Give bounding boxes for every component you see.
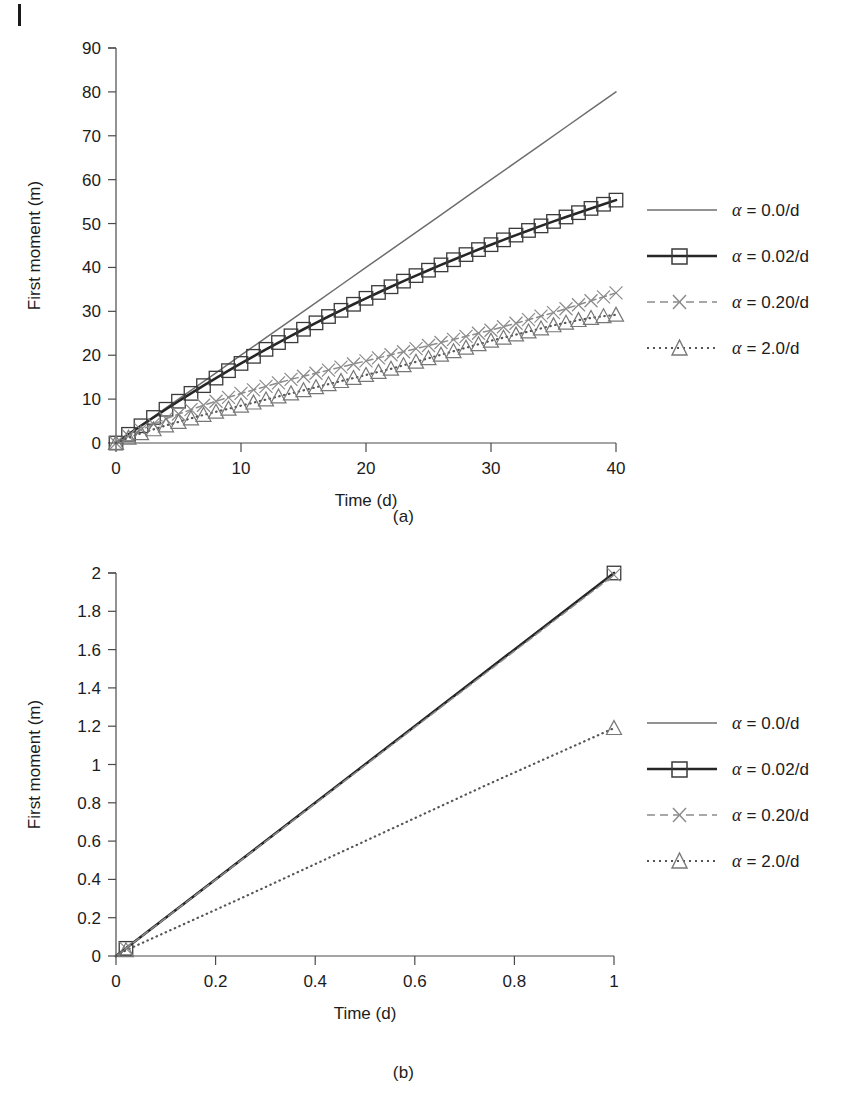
- legend-label-b-alpha-0: α = 0.0/d: [732, 713, 800, 734]
- series-marker-2: [585, 294, 598, 307]
- y-tick-label: 80: [82, 83, 101, 102]
- legend-key-dashed-cross: [645, 803, 719, 827]
- y-tick-label: 90: [82, 39, 101, 58]
- y-tick-label: 50: [82, 215, 101, 234]
- legend-a: α = 0.0/d α = 0.02/d α = 0.20/d α = 2.0/…: [645, 187, 809, 371]
- legend-label-alpha-20: α = 2.0/d: [732, 338, 800, 359]
- x-tick-label: 1: [609, 972, 618, 991]
- y-tick-label: 0.4: [77, 870, 101, 889]
- y-tick-label: 1.2: [77, 717, 101, 736]
- series-marker-2: [360, 354, 373, 367]
- series-line-3: [116, 315, 616, 443]
- legend-key-solid-thick-square: [645, 244, 719, 268]
- legend-key-dashed-cross: [645, 290, 719, 314]
- series-marker-2: [322, 364, 335, 377]
- legend-row-alpha-020[interactable]: α = 0.20/d: [645, 279, 809, 325]
- series-marker-2: [385, 348, 398, 361]
- x-tick-label: 40: [607, 459, 626, 478]
- y-tick-label: 60: [82, 171, 101, 190]
- series-marker-2: [285, 373, 298, 386]
- series-marker-3: [396, 358, 411, 372]
- series-marker-3: [196, 407, 211, 421]
- series-line-3: [116, 728, 614, 956]
- y-tick-label: 1.4: [77, 679, 101, 698]
- subplot-caption-b: (b): [0, 1063, 835, 1083]
- legend-label-b-alpha-20: α = 2.0/d: [732, 851, 800, 872]
- figure-page: 0102030405060708090010203040Time (d)Firs…: [0, 0, 863, 1109]
- legend-label-alpha-002: α = 0.02/d: [732, 246, 809, 267]
- series-line-2: [116, 575, 614, 956]
- x-tick-label: 0.2: [204, 972, 228, 991]
- legend-row-alpha-002[interactable]: α = 0.02/d: [645, 233, 809, 279]
- series-marker-3: [434, 347, 449, 361]
- y-tick-label: 30: [82, 302, 101, 321]
- y-tick-label: 10: [82, 390, 101, 409]
- legend-label-b-alpha-020: α = 0.20/d: [732, 805, 809, 826]
- y-tick-label: 0.6: [77, 832, 101, 851]
- legend-label-alpha-020: α = 0.20/d: [732, 292, 809, 313]
- y-tick-label: 1: [92, 756, 101, 775]
- series-marker-3: [346, 371, 361, 385]
- legend-key-dotted-triangle: [645, 336, 719, 360]
- series-marker-3: [609, 307, 624, 321]
- x-tick-label: 0.4: [303, 972, 327, 991]
- series-marker-2: [572, 298, 585, 311]
- series-marker-2: [610, 286, 623, 299]
- legend-row-b-alpha-020[interactable]: α = 0.20/d: [645, 792, 809, 838]
- y-tick-label: 40: [82, 258, 101, 277]
- legend-b: α = 0.0/d α = 0.02/d α = 0.20/d α = 2.0/…: [645, 700, 809, 884]
- y-axis-title: First moment (m): [25, 181, 44, 310]
- series-marker-2: [310, 367, 323, 380]
- series-marker-2: [347, 358, 360, 371]
- legend-key-solid-thin: [645, 198, 719, 222]
- series-marker-3: [607, 721, 622, 735]
- series-marker-3: [309, 380, 324, 394]
- series-marker-2: [560, 302, 573, 315]
- x-tick-label: 20: [357, 459, 376, 478]
- series-marker-2: [272, 376, 285, 389]
- x-axis-title: Time (d): [334, 1004, 397, 1023]
- legend-key-solid-thin: [645, 711, 719, 735]
- series-marker-2: [335, 361, 348, 374]
- legend-row-alpha-20[interactable]: α = 2.0/d: [645, 325, 809, 371]
- series-marker-2: [185, 403, 198, 416]
- y-tick-label: 70: [82, 127, 101, 146]
- y-tick-label: 20: [82, 346, 101, 365]
- x-tick-label: 0.8: [503, 972, 527, 991]
- legend-label-b-alpha-002: α = 0.02/d: [732, 759, 809, 780]
- series-marker-2: [197, 399, 210, 412]
- y-tick-label: 0.2: [77, 909, 101, 928]
- y-tick-label: 0: [92, 947, 101, 966]
- series-marker-3: [371, 364, 386, 378]
- legend-label-alpha-0: α = 0.0/d: [732, 200, 800, 221]
- x-tick-label: 0: [111, 972, 120, 991]
- y-tick-label: 1.8: [77, 602, 101, 621]
- y-tick-label: 1.6: [77, 641, 101, 660]
- legend-row-b-alpha-20[interactable]: α = 2.0/d: [645, 838, 809, 884]
- series-marker-3: [334, 374, 349, 388]
- series-marker-2: [372, 351, 385, 364]
- y-axis-title: First moment (m): [25, 700, 44, 829]
- x-tick-label: 30: [482, 459, 501, 478]
- series-marker-2: [210, 395, 223, 408]
- series-marker-3: [521, 324, 536, 338]
- y-tick-label: 0: [92, 434, 101, 453]
- legend-row-alpha-0[interactable]: α = 0.0/d: [645, 187, 809, 233]
- x-tick-label: 0.6: [403, 972, 427, 991]
- legend-key-dotted-triangle: [645, 849, 719, 873]
- series-marker-3: [284, 386, 299, 400]
- series-marker-2: [485, 324, 498, 337]
- series-marker-2: [397, 345, 410, 358]
- x-tick-label: 0: [111, 459, 120, 478]
- y-tick-label: 0.8: [77, 794, 101, 813]
- series-marker-3: [246, 395, 261, 409]
- series-marker-3: [259, 392, 274, 406]
- subplot-caption-a: (a): [0, 507, 835, 527]
- series-marker-2: [597, 290, 610, 303]
- legend-key-solid-thick-square: [645, 757, 719, 781]
- legend-row-b-alpha-002[interactable]: α = 0.02/d: [645, 746, 809, 792]
- x-tick-label: 10: [232, 459, 251, 478]
- series-line-0: [116, 92, 616, 443]
- series-marker-2: [297, 370, 310, 383]
- legend-row-b-alpha-0[interactable]: α = 0.0/d: [645, 700, 809, 746]
